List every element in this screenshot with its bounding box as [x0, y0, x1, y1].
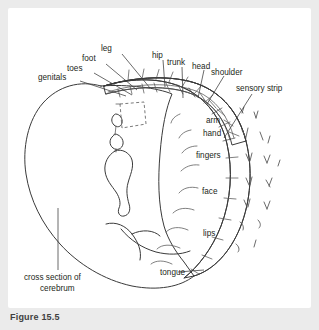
medial-dashed-region	[116, 102, 146, 128]
brain-sensory-homunculus-diagram: .stroke{fill:none;stroke:#3a3a3a;stroke-…	[8, 8, 311, 308]
label-shoulder: shoulder	[211, 68, 243, 77]
figure-panel: .stroke{fill:none;stroke:#3a3a3a;stroke-…	[8, 8, 311, 308]
brainstem-notch	[106, 223, 190, 260]
lateral-sulci-stubs	[151, 114, 199, 264]
label-sensory-strip: sensory strip	[236, 84, 283, 93]
cerebrum-cross-section	[25, 84, 194, 288]
callout-labels: genitals toes foot leg hip trunk head sh…	[24, 44, 283, 293]
figure-root: .stroke{fill:none;stroke:#3a3a3a;stroke-…	[0, 0, 319, 330]
band-region-labels: arm hand fingers face lips	[196, 116, 222, 238]
label-cross-section-line2: cerebrum	[40, 284, 75, 293]
label-hip: hip	[152, 51, 163, 60]
label-arm: arm	[206, 116, 220, 125]
label-genitals: genitals	[38, 73, 66, 82]
label-face: face	[202, 187, 218, 196]
label-fingers: fingers	[196, 151, 221, 160]
label-leg: leg	[101, 44, 112, 53]
ventricle-outline	[105, 114, 133, 216]
band-division-lines	[128, 69, 238, 274]
label-trunk: trunk	[167, 58, 186, 67]
label-tongue: tongue	[160, 268, 185, 277]
label-head: head	[192, 62, 211, 71]
label-foot: foot	[82, 54, 96, 63]
label-toes: toes	[67, 64, 82, 73]
label-lips: lips	[203, 229, 215, 238]
label-hand: hand	[203, 129, 222, 138]
label-cross-section-line1: cross section of	[24, 273, 82, 282]
figure-caption: Figure 15.5	[10, 312, 310, 328]
